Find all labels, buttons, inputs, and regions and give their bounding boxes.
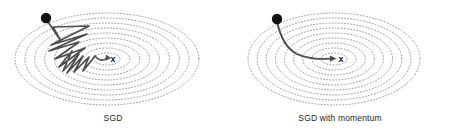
sgd-diagram: x (0, 0, 226, 112)
sgd-zigzag-path (46, 19, 95, 73)
figure-root: x SGD x SGD with moment (0, 0, 453, 136)
caption-sgd: SGD (0, 112, 226, 124)
momentum-arrowhead (330, 55, 337, 61)
caption-momentum: SGD with momentum (227, 112, 453, 124)
sgd-final-approach (95, 56, 107, 60)
panel-momentum: x SGD with momentum (227, 0, 453, 136)
momentum-diagram: x (227, 0, 453, 112)
momentum-minimum-x-marker: x (338, 54, 343, 64)
sgd-minimum-x-marker: x (110, 54, 115, 64)
sgd-start-dot (41, 13, 51, 23)
momentum-start-dot (272, 14, 282, 24)
panel-sgd: x SGD (0, 0, 226, 136)
